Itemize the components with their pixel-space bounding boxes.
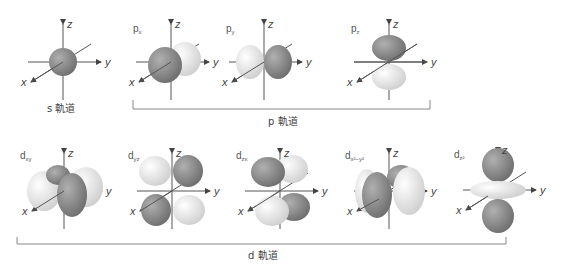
caption-p: p 軌道 (268, 115, 298, 127)
svg-text:z: z (174, 18, 181, 30)
svg-text:z: z (66, 18, 73, 30)
svg-text:y: y (213, 185, 221, 197)
orbital-dzx: zyx dzx (236, 147, 329, 229)
svg-text:dz²: dz² (454, 149, 465, 161)
svg-text:z: z (283, 147, 290, 159)
svg-text:x: x (20, 76, 27, 88)
svg-text:px: px (133, 23, 142, 35)
svg-text:z: z (392, 18, 399, 30)
svg-text:z: z (175, 147, 182, 159)
svg-text:y: y (104, 56, 112, 68)
svg-text:x: x (129, 205, 136, 217)
svg-text:x: x (346, 76, 353, 88)
svg-text:z: z (267, 18, 274, 30)
caption-s: s 軌道 (47, 102, 75, 114)
d-bracket: d 軌道 (17, 237, 506, 261)
svg-text:pz: pz (351, 23, 360, 35)
orbital-dxy: zyx dxy (20, 147, 113, 229)
svg-text:dyz: dyz (128, 150, 140, 162)
svg-text:x: x (346, 205, 353, 217)
orbital-px: zyx px (128, 18, 220, 100)
orbital-dx2-y2: zyx dx²−y² (345, 147, 438, 229)
svg-text:y: y (105, 185, 113, 197)
orbital-diagram: zyx s 軌道 zyx px zyx py zyx pz p 軌道 (0, 0, 567, 267)
svg-text:y: y (430, 185, 438, 197)
orbital-py: zyx py (221, 18, 313, 100)
p-bracket: p 軌道 (133, 100, 430, 127)
svg-text:z: z (392, 147, 399, 159)
svg-text:y: y (212, 56, 220, 68)
svg-text:x: x (21, 205, 28, 217)
orbital-pz: zyx pz (346, 18, 438, 100)
svg-text:y: y (305, 56, 313, 68)
caption-d: d 軌道 (248, 249, 278, 261)
orbital-dz2: zyx dz² (454, 144, 547, 233)
svg-text:z: z (501, 144, 508, 156)
svg-text:x: x (221, 76, 228, 88)
svg-text:dx²−y²: dx²−y² (345, 150, 364, 162)
svg-text:y: y (430, 56, 438, 68)
orbital-s: zyx s 軌道 (20, 18, 112, 114)
orbital-dyz: zyx dyz (128, 147, 221, 229)
svg-text:dxy: dxy (20, 150, 32, 162)
svg-text:x: x (237, 205, 244, 217)
svg-text:x: x (455, 204, 462, 216)
svg-text:z: z (67, 147, 74, 159)
svg-text:y: y (321, 185, 329, 197)
svg-text:x: x (128, 76, 135, 88)
svg-text:py: py (226, 23, 235, 35)
svg-text:dzx: dzx (236, 150, 248, 162)
svg-text:y: y (539, 184, 547, 196)
